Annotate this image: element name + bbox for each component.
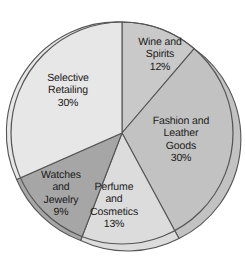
pie-chart-figure: Wine and Spirits 12% Fashion and Leather… xyxy=(0,0,245,258)
pie-chart-graphic xyxy=(0,0,245,258)
